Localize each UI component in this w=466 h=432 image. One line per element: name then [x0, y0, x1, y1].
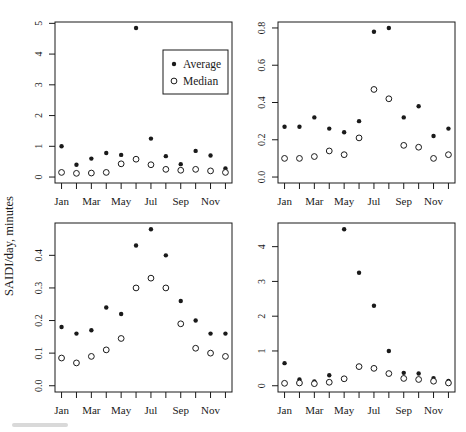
average-point — [179, 162, 183, 166]
average-point — [134, 243, 138, 247]
median-point — [133, 285, 139, 291]
legend-median-marker — [171, 78, 177, 84]
average-point — [282, 361, 286, 365]
y-axis-label: SAIDI/day, minutes — [2, 196, 16, 296]
average-point — [208, 153, 212, 157]
average-point — [282, 125, 286, 129]
panel-bottom-right: JanMarMayJulSepNov01234 — [256, 223, 455, 416]
average-point — [416, 371, 420, 375]
median-point — [431, 378, 437, 384]
median-point — [311, 154, 317, 160]
panel-top-right: JanMarMayJulSepNov0.00.20.40.60.8 — [256, 22, 455, 207]
average-point — [342, 130, 346, 134]
x-tick-label: Sep — [395, 404, 412, 416]
average-point — [416, 104, 420, 108]
average-point — [387, 26, 391, 30]
median-point — [118, 336, 124, 342]
x-tick-label: Sep — [395, 195, 412, 207]
median-point — [356, 135, 362, 141]
average-point — [164, 253, 168, 257]
figure-canvas: SAIDI/day, minutes JanMarMayJulSepNov012… — [0, 0, 466, 432]
median-point — [356, 364, 362, 370]
median-point — [311, 381, 317, 387]
average-point — [402, 371, 406, 375]
median-point — [148, 162, 154, 168]
y-tick-label: 0.3 — [33, 282, 44, 295]
median-point — [326, 148, 332, 154]
median-point — [446, 380, 452, 386]
median-point — [297, 156, 303, 162]
median-point — [371, 365, 377, 371]
median-point — [341, 376, 347, 382]
plot-box — [55, 223, 232, 392]
average-point — [431, 134, 435, 138]
y-tick-label: 0.1 — [33, 347, 44, 360]
x-tick-label: Nov — [424, 404, 443, 416]
median-point — [133, 156, 139, 162]
median-point — [193, 345, 199, 351]
y-tick-label: 3 — [256, 279, 267, 284]
average-point — [446, 126, 450, 130]
median-point — [416, 377, 422, 383]
y-tick-label: 0 — [256, 383, 267, 388]
x-tick-label: Jul — [145, 195, 158, 207]
legend-label: Average — [183, 58, 221, 71]
median-point — [431, 156, 437, 162]
average-point — [372, 29, 376, 33]
median-point — [386, 96, 392, 102]
average-point — [59, 144, 63, 148]
median-point — [386, 371, 392, 377]
median-point — [178, 167, 184, 173]
x-tick-label: Jul — [145, 404, 158, 416]
average-point — [164, 154, 168, 158]
y-tick-label: 0.8 — [256, 22, 267, 35]
plot-box — [55, 22, 232, 183]
median-point — [297, 380, 303, 386]
average-point — [59, 325, 63, 329]
y-tick-label: 0.4 — [33, 249, 44, 262]
y-tick-label: 4 — [256, 244, 267, 249]
saidi-monthly-figure: SAIDI/day, minutes JanMarMayJulSepNov012… — [0, 0, 466, 432]
average-point — [208, 331, 212, 335]
median-point — [88, 354, 94, 360]
panel-top-left: JanMarMayJulSepNov012345AverageMedian — [33, 21, 232, 207]
median-point — [282, 380, 288, 386]
y-tick-label: 0.0 — [256, 171, 267, 184]
average-point — [119, 153, 123, 157]
legend: AverageMedian — [163, 50, 228, 94]
average-point — [372, 304, 376, 308]
legend-box — [163, 50, 228, 94]
median-point — [282, 156, 288, 162]
y-tick-label: 0.6 — [256, 59, 267, 72]
x-tick-label: Nov — [201, 195, 220, 207]
average-point — [89, 156, 93, 160]
average-point — [402, 115, 406, 119]
average-point — [104, 151, 108, 155]
average-point — [357, 119, 361, 123]
median-point — [416, 144, 422, 150]
median-point — [103, 170, 109, 176]
x-tick-label: Sep — [172, 195, 189, 207]
average-point — [74, 163, 78, 167]
median-point — [148, 275, 154, 281]
x-tick-label: May — [334, 404, 355, 416]
average-point — [193, 149, 197, 153]
y-tick-label: 0.4 — [256, 96, 267, 109]
y-tick-label: 0.2 — [256, 134, 267, 147]
y-tick-label: 0.2 — [33, 314, 44, 327]
median-point — [163, 285, 169, 291]
median-point — [193, 166, 199, 172]
x-tick-label: Jan — [277, 404, 292, 416]
average-point — [179, 299, 183, 303]
average-point — [149, 227, 153, 231]
average-point — [134, 26, 138, 30]
average-point — [297, 125, 301, 129]
x-tick-label: May — [334, 195, 355, 207]
y-tick-label: 4 — [33, 52, 44, 57]
legend-label: Median — [183, 75, 218, 87]
average-point — [312, 115, 316, 119]
y-tick-label: 0 — [33, 175, 44, 180]
median-point — [103, 347, 109, 353]
x-tick-label: Jul — [368, 195, 381, 207]
y-tick-label: 3 — [33, 82, 44, 87]
